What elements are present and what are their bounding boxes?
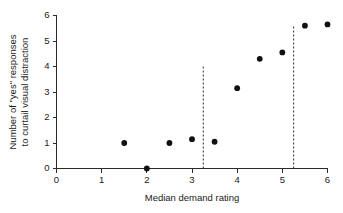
y-tick-label: 0 <box>44 162 49 173</box>
x-tick-label: 4 <box>235 174 240 185</box>
y-tick-label: 3 <box>44 86 49 97</box>
data-point-marker <box>167 140 173 146</box>
data-point-marker <box>212 139 218 145</box>
x-axis-title: Median demand rating <box>145 192 240 203</box>
y-tick-label: 1 <box>44 137 49 148</box>
y-axis-title-line: to curtail visual distraction <box>19 38 30 147</box>
data-point-marker <box>121 140 127 146</box>
y-tick-labels: 0123456 <box>44 9 49 173</box>
axis-titles: Median demand ratingNumber of "yes" resp… <box>7 34 239 203</box>
data-point-marker <box>257 56 263 62</box>
scatter-plot-figure: 0123456 0123456 Median demand ratingNumb… <box>0 0 343 213</box>
plot-canvas: 0123456 0123456 Median demand ratingNumb… <box>0 0 343 213</box>
data-point-marker <box>144 166 150 172</box>
x-tick-label: 6 <box>325 174 330 185</box>
x-tick-label: 5 <box>280 174 285 185</box>
y-axis-title-line: Number of "yes" responses <box>7 34 18 149</box>
x-tick-label: 3 <box>189 174 194 185</box>
reference-lines <box>203 26 293 169</box>
data-point-marker <box>189 136 195 142</box>
y-tick-label: 6 <box>44 9 49 20</box>
y-tick-label: 4 <box>44 60 49 71</box>
data-point-marker <box>325 22 331 28</box>
axes <box>53 16 328 173</box>
data-point-marker <box>234 85 240 91</box>
y-tick-label: 2 <box>44 111 49 122</box>
y-tick-label: 5 <box>44 35 49 46</box>
data-points <box>121 22 330 172</box>
data-point-marker <box>302 23 308 29</box>
x-tick-label: 2 <box>144 174 149 185</box>
x-tick-label: 0 <box>54 174 59 185</box>
data-point-marker <box>279 50 285 56</box>
x-tick-labels: 0123456 <box>54 174 330 185</box>
x-tick-label: 1 <box>99 174 104 185</box>
